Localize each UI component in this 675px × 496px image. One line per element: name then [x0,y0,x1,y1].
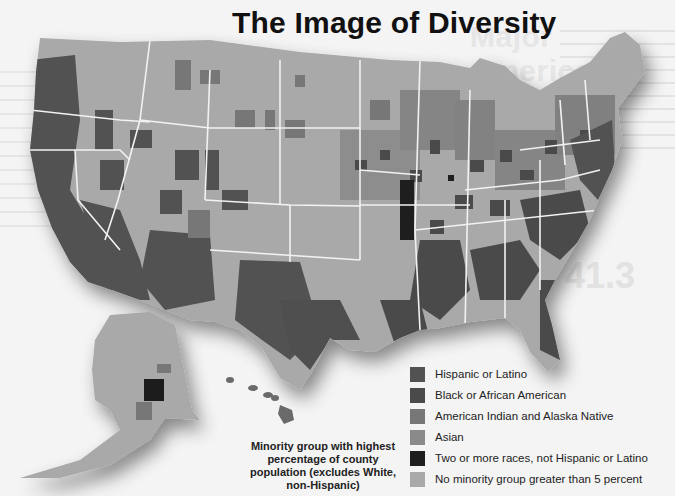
legend-swatch-asian [410,430,425,445]
legend-label: Hispanic or Latino [435,368,527,380]
map-title: The Image of Diversity [232,6,557,40]
legend-item-black: Black or African American [410,385,648,405]
legend-swatch-two-or-more [410,451,425,466]
legend-label: Asian [435,431,464,443]
legend-item-asian: Asian [410,427,648,447]
hawaii [226,377,294,424]
legend-label: Two or more races, not Hispanic or Latin… [435,452,648,464]
legend-swatch-no-minority [410,472,425,487]
legend-label: No minority group greater than 5 percent [435,473,642,485]
legend-swatch-hispanic [410,367,425,382]
alaska [20,312,200,478]
legend-item-two-or-more: Two or more races, not Hispanic or Latin… [410,448,648,468]
legend-item-american-indian: American Indian and Alaska Native [410,406,648,426]
legend-swatch-american-indian [410,409,425,424]
legend-label: American Indian and Alaska Native [435,410,613,422]
legend-caption: Minority group with highest percentage o… [238,440,408,492]
legend-label: Black or African American [435,389,566,401]
legend-item-hispanic: Hispanic or Latino [410,364,648,384]
legend-item-no-minority: No minority group greater than 5 percent [410,469,648,489]
map-legend: Hispanic or Latino Black or African Amer… [410,364,648,490]
legend-swatch-black [410,388,425,403]
